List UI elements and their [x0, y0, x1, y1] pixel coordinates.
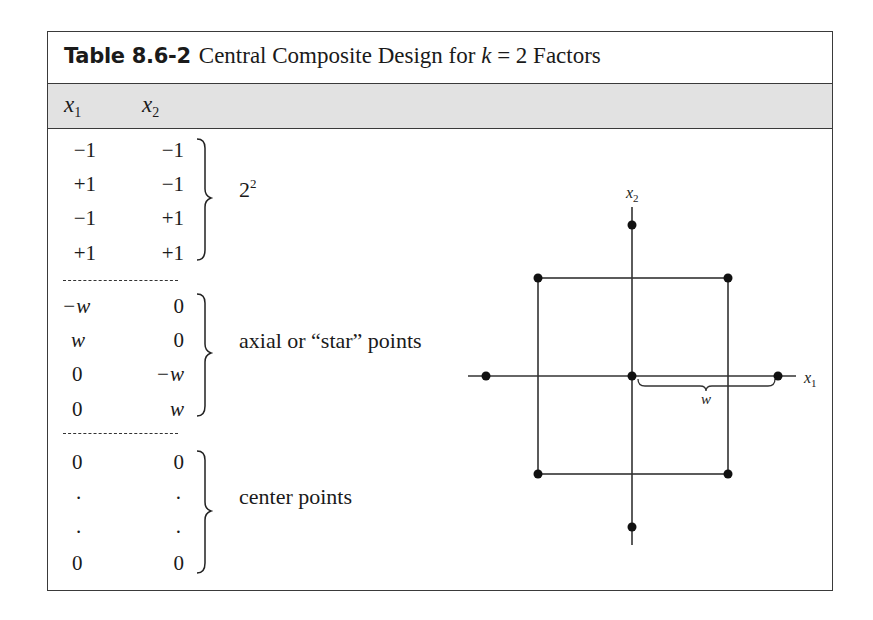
brace-icons	[197, 139, 211, 573]
axial-point	[628, 523, 637, 532]
axial-point	[774, 372, 783, 381]
x2-axis-label: x2	[625, 184, 639, 204]
distance-brace-icon	[638, 379, 775, 391]
factorial-point	[534, 274, 543, 283]
factorial-point	[724, 274, 733, 283]
axial-point	[628, 221, 637, 230]
axial-point	[482, 372, 491, 381]
diagram-canvas: x2 x1 w	[0, 0, 873, 620]
center-point	[628, 372, 637, 381]
right-brace-icon	[197, 451, 211, 573]
right-brace-icon	[197, 139, 211, 260]
factorial-point	[724, 470, 733, 479]
x1-axis-label: x1	[803, 369, 817, 389]
distance-label: w	[701, 391, 711, 407]
factorial-point	[534, 470, 543, 479]
right-brace-icon	[197, 294, 211, 416]
axis-labels: x2 x1 w	[625, 184, 817, 407]
